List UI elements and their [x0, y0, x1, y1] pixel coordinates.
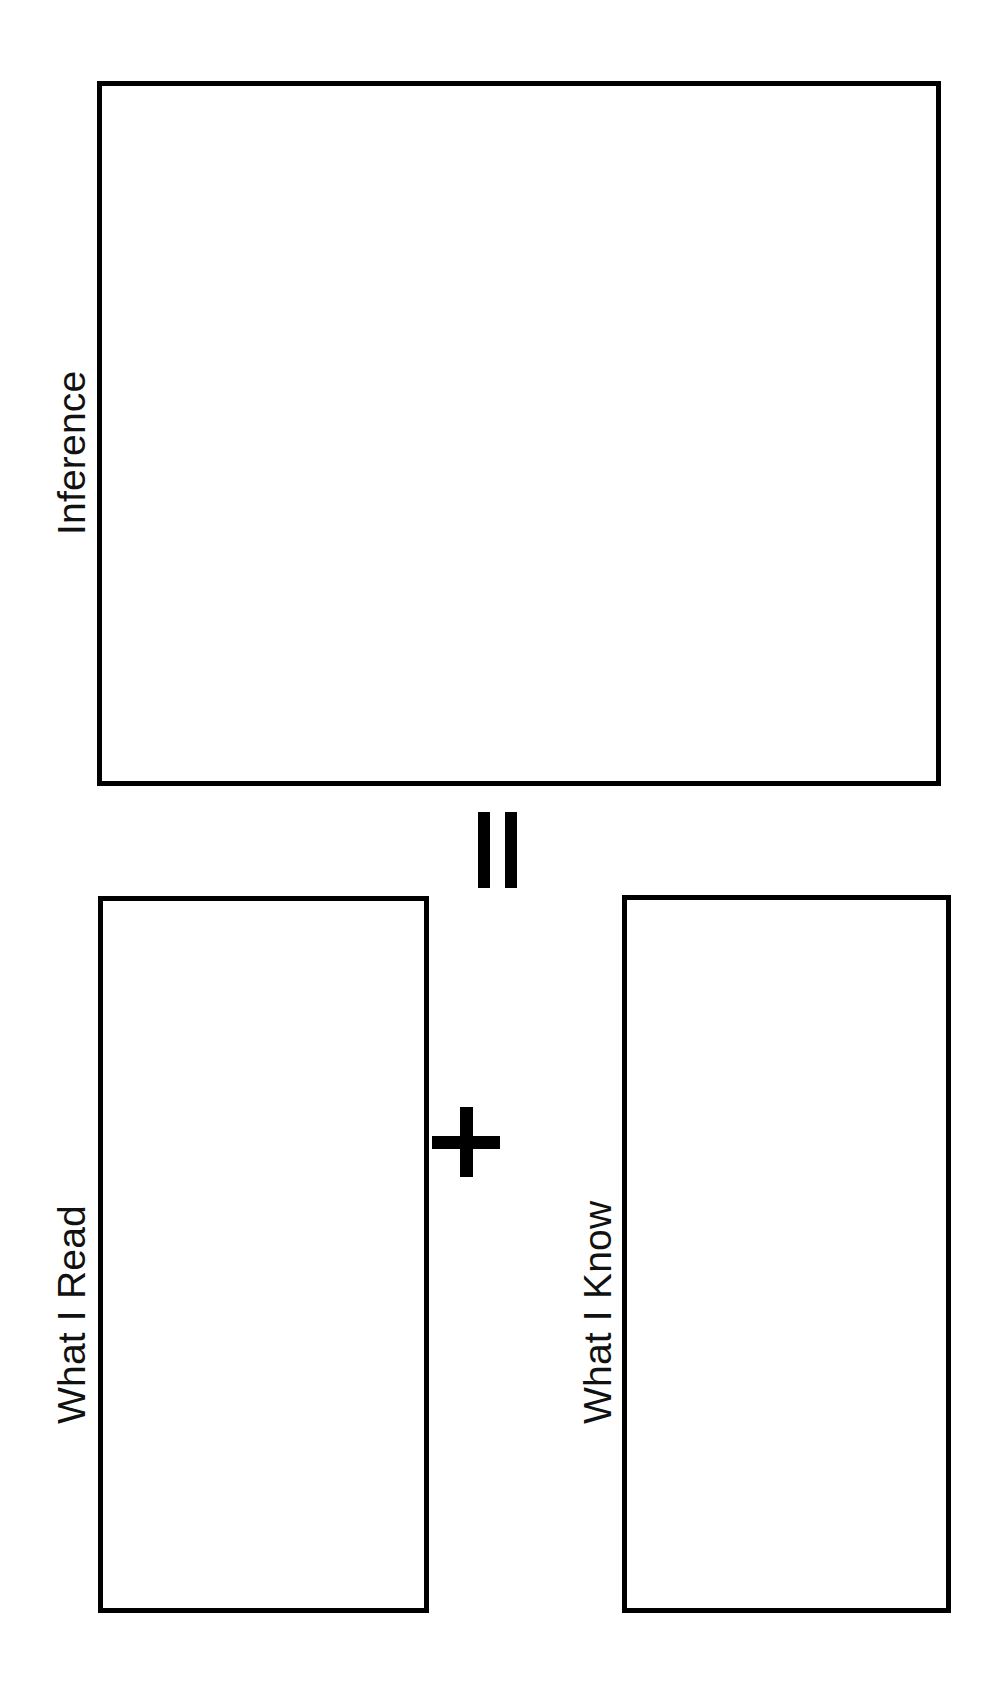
what-i-know-answer-box[interactable]	[622, 895, 951, 1613]
equals-sign-icon	[470, 812, 522, 888]
what-i-read-label: What I Read	[52, 1205, 91, 1424]
equals-bar-top	[478, 812, 490, 888]
what-i-read-answer-box[interactable]	[98, 896, 429, 1613]
worksheet-page: Inference What I Read What I Know	[0, 0, 993, 1683]
inference-label: Inference	[52, 371, 91, 535]
equals-bar-bottom	[505, 812, 517, 888]
inference-answer-box[interactable]	[97, 81, 941, 786]
what-i-know-label: What I Know	[578, 1201, 617, 1424]
plus-sign-icon	[432, 1107, 500, 1177]
plus-vertical-stroke	[460, 1107, 473, 1177]
